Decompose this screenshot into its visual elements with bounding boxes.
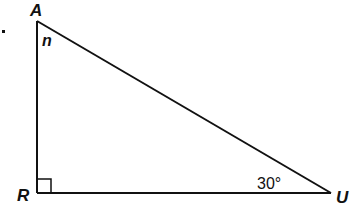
angle-label-U: 30° — [257, 175, 281, 192]
vertex-label-A: A — [29, 1, 42, 20]
triangle-diagram: A R U n 30° — [0, 0, 351, 207]
right-angle-marker — [37, 179, 51, 193]
angle-label-A: n — [42, 32, 52, 49]
vertex-label-U: U — [336, 188, 349, 207]
bullet-mark — [2, 30, 5, 33]
vertex-label-R: R — [17, 186, 30, 205]
side-AU — [37, 21, 331, 193]
